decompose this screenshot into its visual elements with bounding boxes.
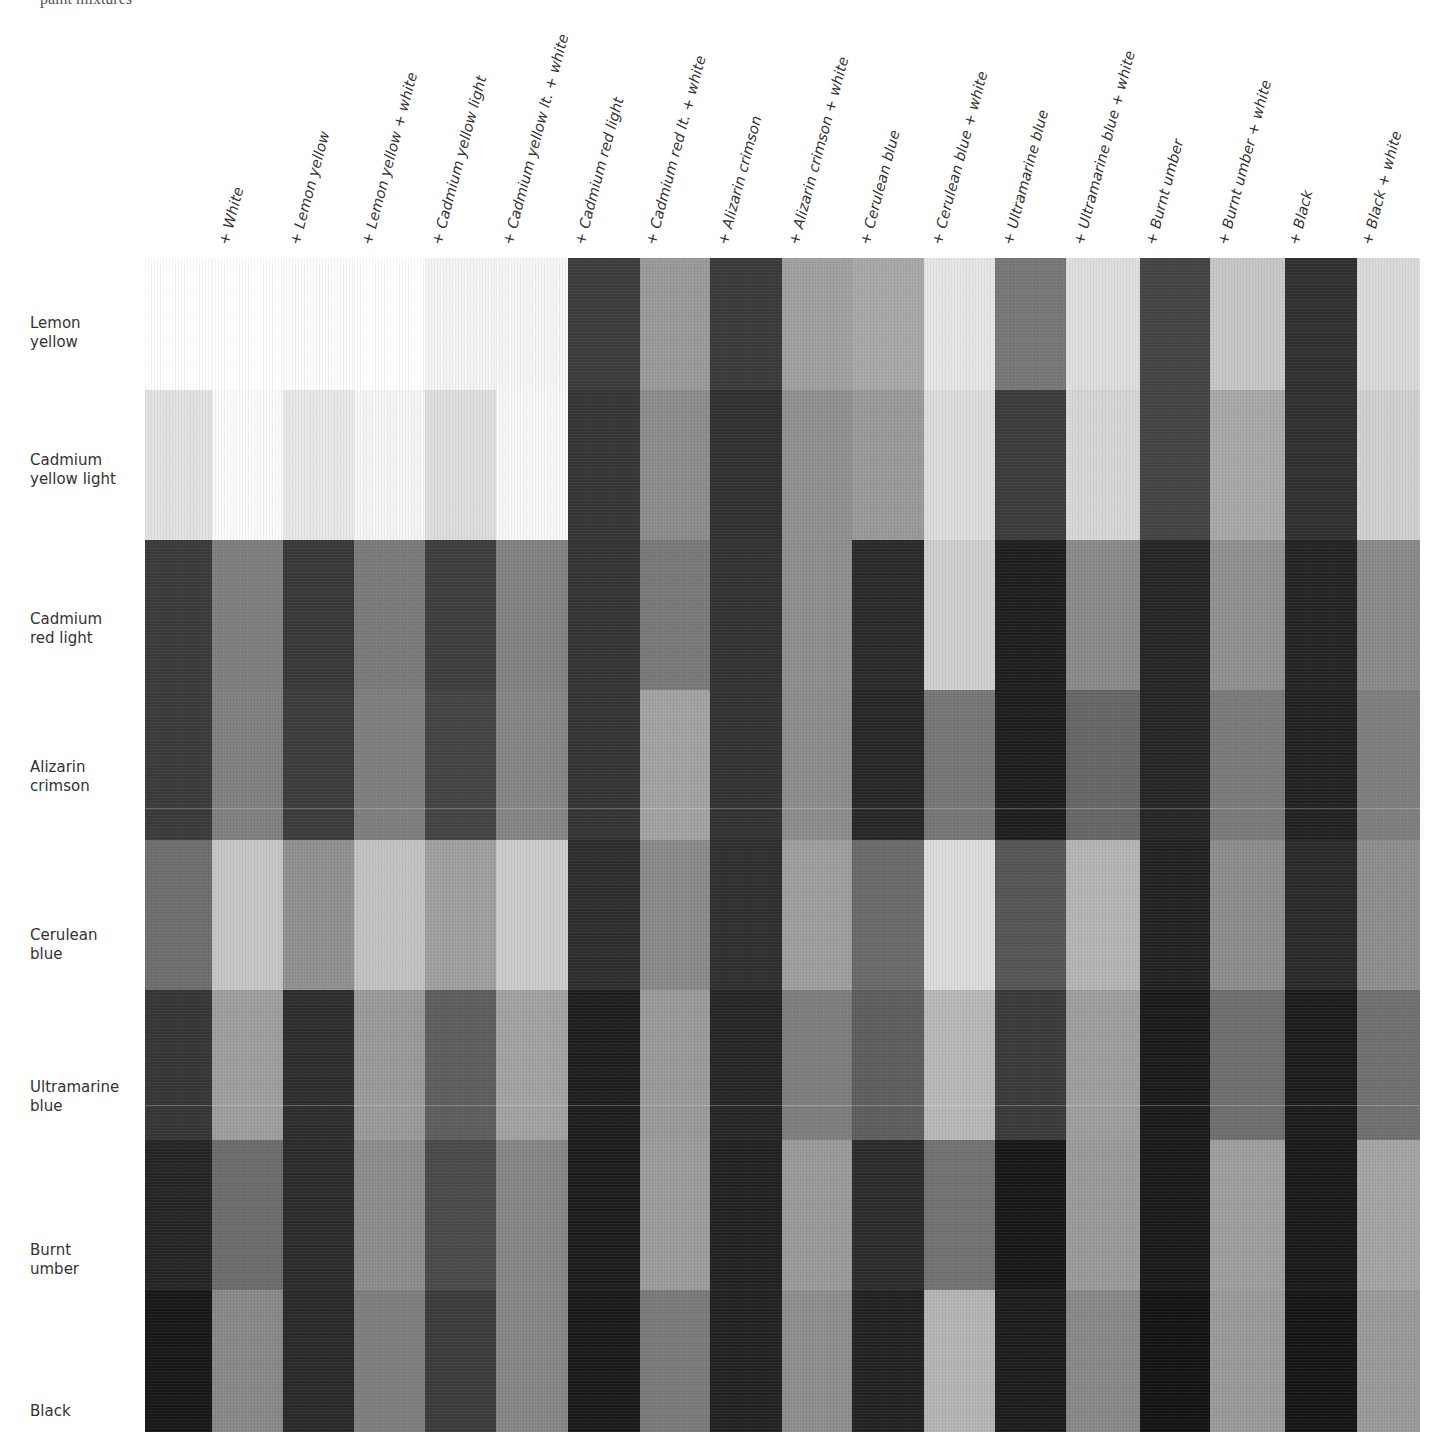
swatch-cell bbox=[212, 390, 283, 540]
swatch-cell bbox=[212, 990, 283, 1140]
swatch-cell bbox=[1066, 840, 1140, 990]
column-label: + Alizarin crimson + white bbox=[786, 0, 875, 248]
swatch-cell bbox=[782, 1290, 852, 1432]
swatch-cell bbox=[640, 540, 710, 690]
swatch-cell bbox=[568, 690, 640, 840]
swatch-cell bbox=[710, 840, 782, 990]
swatch-cell bbox=[496, 840, 568, 990]
swatch-cell bbox=[924, 258, 995, 390]
swatch-cell bbox=[1210, 258, 1285, 390]
swatch-cell bbox=[640, 690, 710, 840]
swatch-cell bbox=[283, 540, 354, 690]
swatch-cell bbox=[145, 390, 212, 540]
swatch-cell bbox=[354, 1140, 425, 1290]
swatch-cell bbox=[212, 258, 283, 390]
row-label: Burntumber bbox=[30, 1241, 79, 1279]
swatch-cell bbox=[1210, 840, 1285, 990]
swatch-cell bbox=[1285, 1290, 1357, 1432]
swatch-cell bbox=[1357, 840, 1420, 990]
swatch-cell bbox=[640, 390, 710, 540]
swatch-cell bbox=[782, 690, 852, 840]
swatch-cell bbox=[568, 990, 640, 1140]
swatch-cell bbox=[425, 390, 496, 540]
swatch-cell bbox=[640, 1140, 710, 1290]
column-label: + Ultramarine blue bbox=[1000, 0, 1089, 248]
swatch-cell bbox=[710, 690, 782, 840]
swatch-cell bbox=[283, 990, 354, 1140]
swatch-cell bbox=[1357, 390, 1420, 540]
row-label-line: Cerulean bbox=[30, 926, 97, 945]
swatch-cell bbox=[852, 690, 924, 840]
column-label: + Black + white bbox=[1359, 0, 1448, 248]
row-label-line: crimson bbox=[30, 777, 90, 796]
swatch-cell bbox=[1210, 540, 1285, 690]
swatch-cell bbox=[1140, 390, 1210, 540]
swatch-cell bbox=[496, 540, 568, 690]
swatch-cell bbox=[145, 258, 212, 390]
row-label-line: blue bbox=[30, 1097, 119, 1116]
swatch-cell bbox=[354, 840, 425, 990]
swatch-cell bbox=[568, 390, 640, 540]
swatch-cell bbox=[924, 840, 995, 990]
swatch-cell bbox=[1066, 690, 1140, 840]
swatch-cell bbox=[425, 1140, 496, 1290]
swatch-cell bbox=[283, 390, 354, 540]
row-label: Ultramarineblue bbox=[30, 1078, 119, 1116]
swatch-cell bbox=[852, 1290, 924, 1432]
swatch-cell bbox=[782, 990, 852, 1140]
swatch-cell bbox=[1357, 258, 1420, 390]
swatch-cell bbox=[354, 990, 425, 1140]
row-label-line: Burnt bbox=[30, 1241, 79, 1260]
swatch-cell bbox=[568, 1140, 640, 1290]
swatch-cell bbox=[283, 1140, 354, 1290]
swatch-cell bbox=[640, 1290, 710, 1432]
swatch-cell bbox=[425, 690, 496, 840]
swatch-cell bbox=[924, 1290, 995, 1432]
swatch-cell bbox=[1066, 1140, 1140, 1290]
swatch-cell bbox=[425, 540, 496, 690]
swatch-cell bbox=[852, 1140, 924, 1290]
swatch-cell bbox=[1357, 990, 1420, 1140]
swatch-cell bbox=[1066, 990, 1140, 1140]
column-label: + Cadmium yellow light bbox=[429, 0, 518, 248]
column-label: + Ultramarine blue + white bbox=[1071, 0, 1160, 248]
swatch-cell bbox=[995, 690, 1066, 840]
row-label-line: blue bbox=[30, 945, 97, 964]
swatch-cell bbox=[710, 990, 782, 1140]
swatch-cell bbox=[145, 840, 212, 990]
swatch-cell bbox=[425, 258, 496, 390]
swatch-cell bbox=[924, 540, 995, 690]
swatch-cell bbox=[1210, 690, 1285, 840]
row-label-line: Cadmium bbox=[30, 610, 102, 629]
swatch-cell bbox=[1357, 540, 1420, 690]
swatch-cell bbox=[354, 540, 425, 690]
swatch-cell bbox=[924, 990, 995, 1140]
swatch-cell bbox=[568, 840, 640, 990]
swatch-cell bbox=[852, 258, 924, 390]
swatch-cell bbox=[1285, 1140, 1357, 1290]
swatch-cell bbox=[852, 990, 924, 1140]
top-text-fragment: paint mixtures bbox=[40, 0, 132, 8]
swatch-cell bbox=[496, 690, 568, 840]
swatch-cell bbox=[1210, 1290, 1285, 1432]
swatch-cell bbox=[212, 840, 283, 990]
row-label-line: yellow light bbox=[30, 470, 116, 489]
swatch-cell bbox=[852, 390, 924, 540]
swatch-cell bbox=[852, 840, 924, 990]
swatch-cell bbox=[640, 258, 710, 390]
row-label-line: red light bbox=[30, 629, 102, 648]
column-label: + Alizarin crimson bbox=[715, 0, 804, 248]
swatch-cell bbox=[995, 1290, 1066, 1432]
swatch-cell bbox=[212, 540, 283, 690]
swatch-cell bbox=[995, 390, 1066, 540]
swatch-cell bbox=[496, 1140, 568, 1290]
swatch-cell bbox=[1140, 540, 1210, 690]
swatch-cell bbox=[710, 390, 782, 540]
row-label-line: Lemon bbox=[30, 314, 81, 333]
swatch-cell bbox=[283, 840, 354, 990]
swatch-cell bbox=[354, 390, 425, 540]
swatch-cell bbox=[283, 690, 354, 840]
swatch-cell bbox=[1066, 1290, 1140, 1432]
swatch-cell bbox=[354, 258, 425, 390]
swatch-cell bbox=[995, 1140, 1066, 1290]
